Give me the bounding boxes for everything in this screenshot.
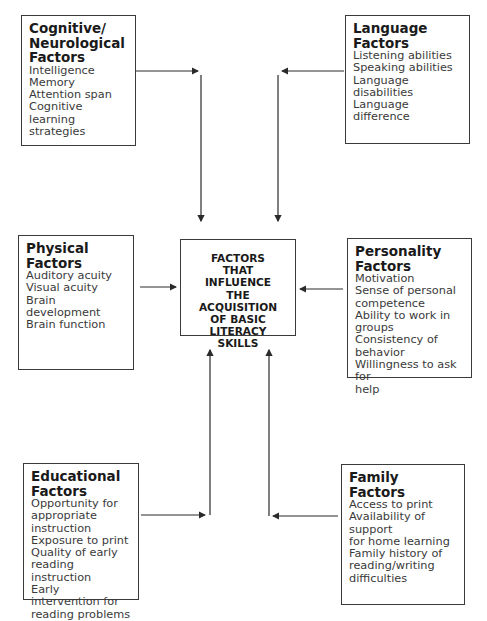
cognitive-factors-title: Cognitive/ Neurological Factors: [29, 21, 128, 65]
educational-item: Quality of early reading instruction: [31, 547, 131, 584]
educational-item: Opportunity for appropriate instruction: [31, 498, 131, 535]
family-item: Family history of reading/writing diffic…: [349, 548, 457, 585]
educational-factors-box: Educational Factors Opportunity for appr…: [23, 463, 139, 600]
physical-factors-box: Physical Factors Auditory acuity Visual …: [18, 235, 134, 370]
language-item: Language difference: [353, 99, 462, 124]
cognitive-item: Cognitive learning strategies: [29, 101, 128, 138]
language-item: Language disabilities: [353, 75, 462, 100]
educational-factors-title: Educational Factors: [31, 469, 131, 498]
physical-item: Brain development: [26, 295, 126, 320]
cognitive-factors-box: Cognitive/ Neurological Factors Intellig…: [21, 15, 136, 146]
physical-factors-title: Physical Factors: [26, 241, 126, 270]
language-factors-box: Language Factors Listening abilities Spe…: [345, 15, 470, 144]
cognitive-item: Intelligence: [29, 65, 128, 77]
personality-item: Consistency of behavior: [355, 334, 464, 359]
central-concept-box: FACTORS THAT INFLUENCE THE ACQUISITION O…: [180, 239, 296, 336]
family-factors-box: Family Factors Access to print Availabil…: [341, 464, 465, 605]
educational-item: Early intervention for reading problems: [31, 584, 131, 621]
personality-item: Willingness to ask for help: [355, 359, 464, 396]
language-item: Speaking abilities: [353, 62, 462, 74]
personality-item: Sense of personal competence: [355, 285, 464, 310]
personality-factors-title: Personality Factors: [355, 244, 464, 273]
language-factors-title: Language Factors: [353, 21, 462, 50]
personality-factors-box: Personality Factors Motivation Sense of …: [347, 238, 472, 378]
physical-item: Brain function: [26, 319, 126, 331]
central-concept-text: FACTORS THAT INFLUENCE THE ACQUISITION O…: [188, 252, 288, 350]
physical-item: Visual acuity: [26, 282, 126, 294]
family-item: Availability of support for home learnin…: [349, 511, 457, 548]
family-factors-title: Family Factors: [349, 470, 457, 499]
personality-item: Ability to work in groups: [355, 310, 464, 335]
